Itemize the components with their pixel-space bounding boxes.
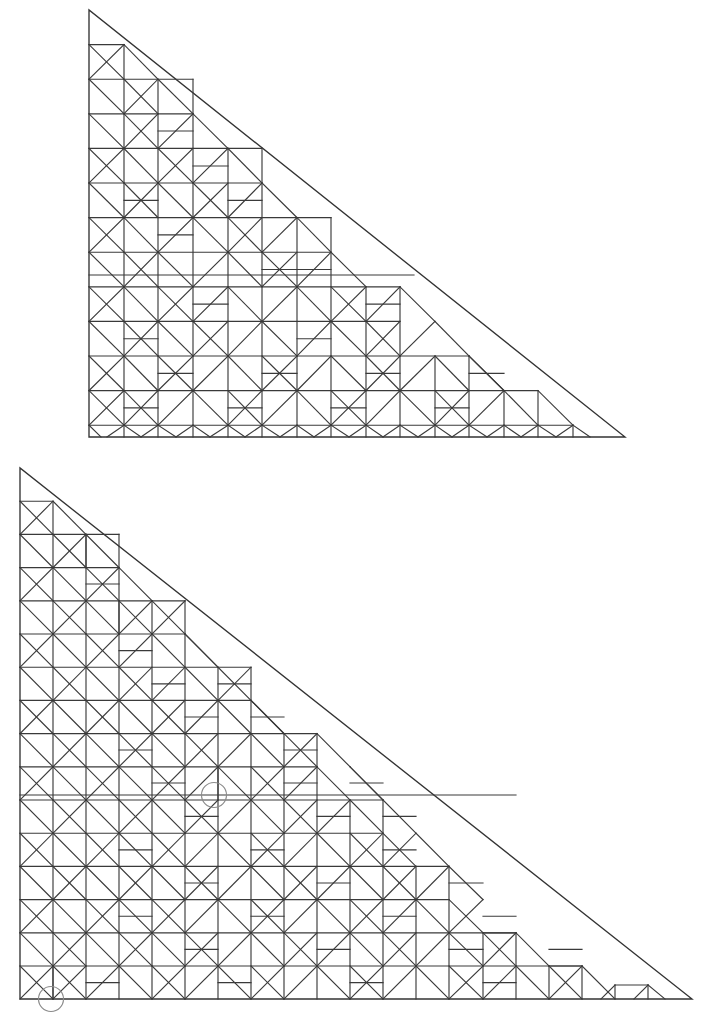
figure-sheet	[0, 0, 711, 1031]
lower-triangle-pattern-strokes	[20, 501, 665, 999]
tiling-figures-canvas	[0, 0, 711, 1031]
upper-triangle-pattern-strokes	[89, 45, 590, 437]
lower-triangle-tiling	[20, 468, 692, 1012]
upper-triangle-grid-lines	[89, 45, 573, 437]
upper-triangle-tiling	[89, 10, 625, 437]
